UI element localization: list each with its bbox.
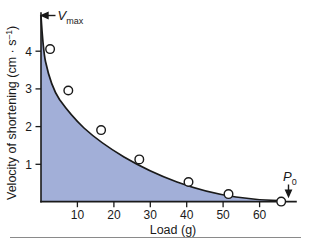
data-point [46,45,55,54]
x-tick-label-60: 60 [253,208,267,222]
data-point [277,197,286,206]
force-velocity-figure: 1 2 3 4 10 20 30 40 50 60 Vmax P0 Load [0,0,315,246]
y-axis-title: Velocity of shortening (cm · s–1) [4,26,19,200]
x-axis-title: Load (g) [150,223,197,237]
x-tick-label-40: 40 [180,208,194,222]
data-point [135,155,144,164]
x-tick-label-10: 10 [71,208,85,222]
y-tick-label-3: 3 [25,82,32,96]
data-point [64,86,73,95]
data-point [224,190,233,199]
y-tick-label-2: 2 [25,120,32,134]
x-tick-label-50: 50 [216,208,230,222]
y-tick-label-4: 4 [25,45,32,59]
x-tick-label-30: 30 [144,208,158,222]
chart-svg: 1 2 3 4 10 20 30 40 50 60 Vmax P0 Load [0,0,315,246]
data-point [97,126,106,135]
y-tick-label-1: 1 [25,158,32,172]
data-point [184,178,193,187]
x-tick-label-20: 20 [107,208,121,222]
